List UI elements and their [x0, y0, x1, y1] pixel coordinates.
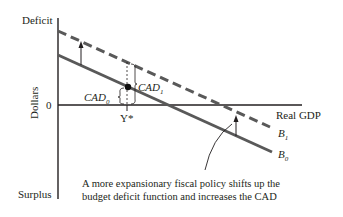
y-axis-label: Dollars [28, 87, 40, 119]
shift-arrow-right [234, 115, 239, 136]
cad0-base: CAD [84, 91, 106, 103]
caption: A more expansionary fiscal policy shifts… [82, 177, 280, 203]
cad0-sub: 0 [106, 98, 110, 106]
y-axis-top-label: Deficit [22, 14, 53, 26]
b0-sub: 0 [285, 155, 289, 163]
y-axis-zero-label: 0 [46, 99, 52, 111]
curve-b1 [58, 31, 270, 127]
x-axis-label: Real GDP [276, 109, 321, 121]
y-star-label: Y* [120, 112, 133, 124]
b0-base: B [278, 148, 285, 160]
shift-arrow-left [79, 41, 84, 65]
b1-label: B1 [278, 127, 288, 144]
b1-sub: 1 [285, 134, 289, 142]
cad1-sub: 1 [160, 88, 164, 96]
cad0-label: CAD0 [84, 91, 110, 108]
caption-line-1: A more expansionary fiscal policy shifts… [82, 177, 280, 190]
caption-line-2: budget deficit function and increases th… [82, 190, 280, 203]
b0-label: B0 [278, 148, 288, 165]
b1-base: B [278, 127, 285, 139]
y-axis-bottom-label: Surplus [18, 188, 52, 200]
cad1-base: CAD [138, 81, 160, 93]
equilibrium-point [125, 84, 131, 90]
cad1-label: CAD1 [138, 81, 164, 98]
cad0-bracket [118, 88, 124, 104]
cad1-bracket [131, 64, 137, 104]
